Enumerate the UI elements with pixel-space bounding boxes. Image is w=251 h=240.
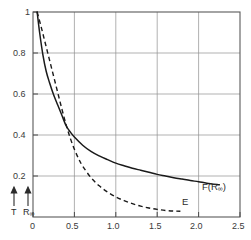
x-tick-label-3: 1.5 (149, 222, 162, 231)
curve-label-E: E (182, 197, 188, 207)
chart-background (0, 0, 251, 240)
y-tick-label-0.6: 0.6 (13, 90, 26, 99)
y-tick-label-0.2: 0.2 (13, 172, 26, 181)
x-tick-label-4: 2.0 (190, 222, 203, 231)
annotation-label-R-infinity: R∞ (23, 208, 35, 217)
x-tick-label-0: 0 (30, 222, 35, 231)
x-tick-label-5: 2.5 (232, 222, 245, 231)
curve-label-F-tail: ) (223, 181, 226, 192)
annotation-label-T: T (11, 208, 17, 217)
annotation-label-R-subscript: ∞ (30, 210, 35, 217)
chart-figure (0, 0, 251, 240)
y-tick-label-0.8: 0.8 (13, 49, 26, 58)
curve-label-F-base: F(R (202, 181, 218, 192)
curve-label-F-Rinfinity: F(R∞) (202, 182, 226, 192)
x-tick-label-1: 0.5 (66, 222, 79, 231)
x-tick-label-2: 1.0 (107, 222, 120, 231)
y-tick-label-0.4: 0.4 (13, 131, 26, 140)
y-tick-label-1: 1 (25, 8, 30, 17)
